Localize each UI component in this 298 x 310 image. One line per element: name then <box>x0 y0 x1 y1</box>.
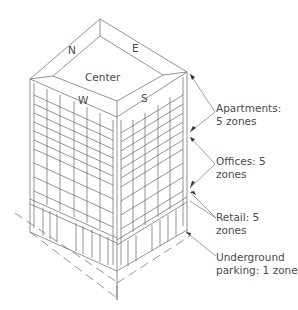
zone-label-line: Apartments: <box>216 102 281 115</box>
zone-label-line: 5 zones <box>216 115 281 128</box>
zone-label-line: Retail: 5 <box>216 211 259 224</box>
zone-label-line: parking: 1 zone <box>216 264 298 277</box>
roof-outline <box>30 19 187 117</box>
zone-label-line: Underground <box>216 251 298 264</box>
zone-label-offices: Offices: 5 zones <box>216 155 266 181</box>
zone-label-line: zones <box>216 168 266 181</box>
left-facade-floors <box>30 95 117 271</box>
zone-label-underground-parking: Underground parking: 1 zone <box>216 251 298 277</box>
leader-lines <box>186 74 216 256</box>
underground-outline <box>15 213 190 298</box>
roof-label-east: E <box>132 42 139 54</box>
roof-label-south: S <box>141 92 148 104</box>
zone-label-retail: Retail: 5 zones <box>216 211 259 237</box>
zone-label-line: zones <box>216 224 259 237</box>
zone-label-apartments: Apartments: 5 zones <box>216 102 281 128</box>
roof-label-center: Center <box>85 71 120 83</box>
roof-label-north: N <box>68 44 76 56</box>
zone-label-line: Offices: 5 <box>216 155 266 168</box>
roof-label-west: W <box>78 94 88 106</box>
